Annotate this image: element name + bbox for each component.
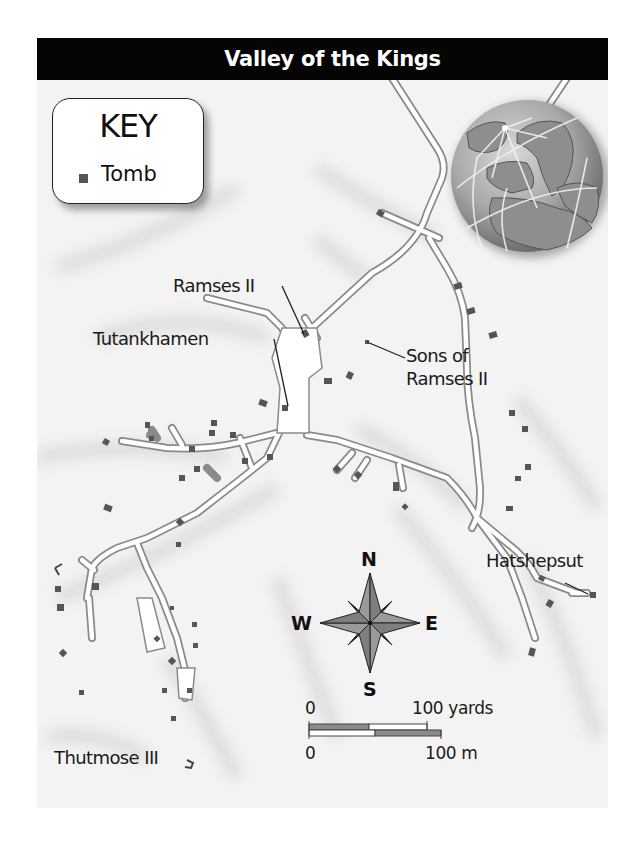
thutmose-iii-tomb-icon bbox=[185, 760, 193, 768]
tomb-swatch-icon bbox=[79, 174, 88, 183]
compass-east: E bbox=[425, 612, 438, 634]
scale-bottom-max: 100 m bbox=[425, 743, 477, 763]
label-sons-of-ramses-line1: Sons of bbox=[406, 345, 468, 367]
map-title: Valley of the Kings bbox=[204, 47, 441, 71]
label-ramses-ii: Ramses II bbox=[173, 275, 254, 297]
terrain-shading bbox=[37, 168, 597, 778]
compass-rose bbox=[320, 573, 420, 673]
compass-south: S bbox=[363, 678, 377, 700]
label-sons-of-ramses-line2: Ramses II bbox=[406, 368, 487, 390]
central-plaza bbox=[272, 328, 322, 433]
scale-bottom-zero: 0 bbox=[305, 743, 315, 763]
key-heading: KEY bbox=[53, 107, 203, 145]
title-bar: Valley of the Kings bbox=[37, 38, 608, 80]
label-hatshepsut: Hatshepsut bbox=[486, 550, 583, 572]
label-thutmose-iii: Thutmose III bbox=[54, 747, 158, 769]
tombs bbox=[55, 209, 596, 721]
key-label-tomb: Tomb bbox=[101, 162, 157, 186]
locator-globe bbox=[451, 100, 608, 258]
compass-west: W bbox=[291, 612, 312, 634]
map-key: KEY Tomb bbox=[52, 98, 204, 204]
scale-bar bbox=[309, 721, 441, 739]
compass-north: N bbox=[361, 548, 377, 570]
label-tutankhamen: Tutankhamen bbox=[93, 328, 208, 350]
map-frame: Valley of the Kings bbox=[37, 38, 608, 808]
scale-top-max: 100 yards bbox=[412, 698, 493, 718]
scale-top-zero: 0 bbox=[305, 698, 315, 718]
